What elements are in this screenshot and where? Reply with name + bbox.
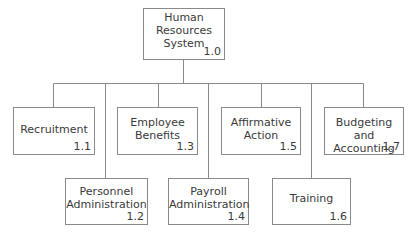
node-number: 1.0: [204, 45, 222, 58]
node-human-resources-system: Human Resources System 1.0: [143, 8, 225, 60]
node-label: Payroll Administration: [169, 185, 248, 211]
node-number: 1.2: [127, 210, 145, 223]
node-number: 1.4: [228, 210, 246, 223]
node-affirmative-action: Affirmative Action 1.5: [221, 107, 301, 155]
node-employee-benefits: Employee Benefits 1.3: [117, 107, 198, 155]
node-number: 1.7: [383, 140, 401, 153]
node-label: Personnel Administration: [66, 185, 147, 211]
node-number: 1.3: [177, 140, 195, 153]
node-number: 1.5: [280, 140, 298, 153]
node-label: Recruitment: [14, 123, 94, 136]
node-label: Affirmative Action: [222, 116, 300, 142]
node-label: Training: [273, 192, 350, 205]
node-payroll-administration: Payroll Administration 1.4: [168, 178, 249, 225]
hierarchy-diagram: Human Resources System 1.0 Recruitment 1…: [0, 0, 418, 237]
node-label: Employee Benefits: [118, 116, 197, 142]
node-number: 1.1: [74, 140, 92, 153]
node-training: Training 1.6: [272, 178, 351, 225]
node-recruitment: Recruitment 1.1: [13, 107, 95, 155]
node-personnel-administration: Personnel Administration 1.2: [65, 178, 148, 225]
node-number: 1.6: [330, 210, 348, 223]
node-budgeting-and-accounting: Budgeting and Accounting 1.7: [324, 107, 404, 155]
